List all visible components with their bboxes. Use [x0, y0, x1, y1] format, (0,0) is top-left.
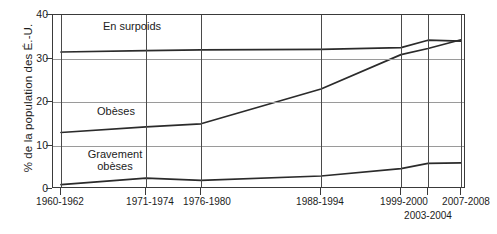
- y-tick-label-20: 20: [2, 95, 48, 107]
- series-label-gravement-line2: obèses: [97, 160, 132, 172]
- x-tick-mark-2003-2004: [427, 188, 428, 195]
- y-tick-label-30: 30: [2, 52, 48, 64]
- plot-area: En surpoids Obèses Gravement obèses: [52, 14, 465, 188]
- gridline-v-1960-1962: [61, 15, 62, 187]
- x-tick-mark-1999-2000: [400, 188, 401, 195]
- x-tick-label-1988-1994: 1988-1994: [296, 196, 344, 207]
- x-tick-label-1960-1962: 1960-1962: [36, 196, 84, 207]
- x-tick-mark-2007-2008: [460, 188, 461, 195]
- x-tick-mark-1960-1962: [60, 188, 61, 195]
- x-tick-label-2003-2004: 2003-2004: [404, 210, 452, 221]
- gridline-h-10: [53, 146, 464, 147]
- gridline-v-2007-2008: [461, 15, 462, 187]
- x-tick-label-1971-1974: 1971-1974: [126, 196, 174, 207]
- y-tick-mark-0: [46, 188, 52, 189]
- series-label-gravement-obeses: Gravement obèses: [63, 148, 167, 172]
- y-tick-label-10: 10: [2, 139, 48, 151]
- series-label-en-surpoids: En surpoids: [77, 20, 187, 32]
- gridline-h-30: [53, 59, 464, 60]
- series-label-gravement-line1: Gravement: [88, 148, 142, 160]
- series-label-obeses: Obèses: [73, 105, 159, 117]
- x-tick-mark-1971-1974: [145, 188, 146, 195]
- gridline-v-1976-1980: [201, 15, 202, 187]
- x-tick-label-1999-2000: 1999-2000: [380, 196, 428, 207]
- y-tick-label-0: 0: [2, 182, 48, 194]
- gridline-v-2003-2004: [428, 15, 429, 187]
- x-tick-mark-1988-1994: [320, 188, 321, 195]
- x-tick-mark-1976-1980: [200, 188, 201, 195]
- gridline-v-1988-1994: [321, 15, 322, 187]
- x-tick-label-1976-1980: 1976-1980: [183, 196, 231, 207]
- gridline-h-20: [53, 102, 464, 103]
- x-tick-label-2007-2008: 2007-2008: [442, 196, 490, 207]
- chart-figure: % de la population des É.-U. 40 30 20 10…: [0, 0, 497, 234]
- y-tick-label-40: 40: [2, 8, 48, 20]
- gridline-v-1999-2000: [401, 15, 402, 187]
